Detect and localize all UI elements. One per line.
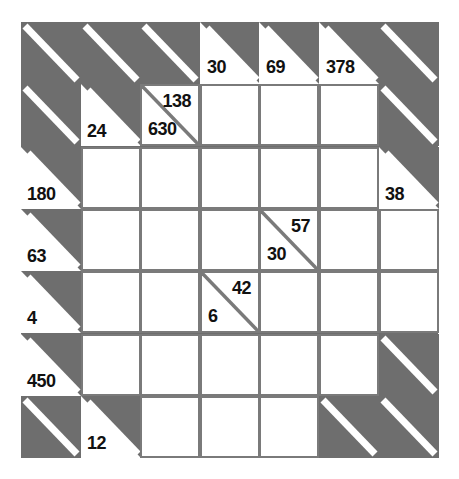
blocked-cell <box>21 22 81 84</box>
clue-value-down: 180 <box>27 185 56 203</box>
answer-cell[interactable] <box>200 209 260 271</box>
clue-value-down: 378 <box>326 58 355 76</box>
answer-cell[interactable] <box>140 396 200 458</box>
blocked-cell <box>21 396 81 458</box>
answer-cell[interactable] <box>319 147 379 209</box>
blocked-cell <box>379 22 439 84</box>
answer-cell[interactable] <box>259 84 319 146</box>
clue-value-down: 38 <box>385 185 404 203</box>
answer-cell[interactable] <box>319 209 379 271</box>
answer-cell[interactable] <box>81 147 141 209</box>
answer-cell[interactable] <box>140 147 200 209</box>
clue-cell: 38 <box>379 147 439 209</box>
clue-value-across: 57 <box>291 217 310 235</box>
clue-value-down: 630 <box>148 120 177 138</box>
blocked-cell <box>379 84 439 146</box>
clue-value-down: 24 <box>87 122 106 140</box>
clue-cell: 69 <box>259 22 319 84</box>
answer-cell[interactable] <box>319 271 379 333</box>
clue-value-down: 450 <box>27 372 56 390</box>
answer-cell[interactable] <box>140 209 200 271</box>
clue-cell: 63 <box>21 209 81 271</box>
clue-cell: 24 <box>81 84 141 146</box>
blocked-cell <box>379 396 439 458</box>
clue-cell: 180 <box>21 147 81 209</box>
answer-cell[interactable] <box>379 271 439 333</box>
blocked-cell <box>140 22 200 84</box>
split-clue-cell: 642 <box>200 271 260 333</box>
clue-value-down: 30 <box>267 245 286 263</box>
clue-value-down: 30 <box>207 58 226 76</box>
clue-value-down: 4 <box>27 309 37 327</box>
answer-cell[interactable] <box>319 334 379 396</box>
answer-cell[interactable] <box>379 209 439 271</box>
blocked-cell <box>379 334 439 396</box>
clue-value-across: 42 <box>232 279 251 297</box>
clue-cell: 378 <box>319 22 379 84</box>
clue-cell: 12 <box>81 396 141 458</box>
blocked-cell <box>21 84 81 146</box>
answer-cell[interactable] <box>200 396 260 458</box>
split-clue-cell: 3057 <box>259 209 319 271</box>
answer-cell[interactable] <box>81 209 141 271</box>
answer-cell[interactable] <box>200 334 260 396</box>
blocked-cell <box>319 396 379 458</box>
answer-cell[interactable] <box>200 147 260 209</box>
clue-value-down: 12 <box>87 434 106 452</box>
answer-cell[interactable] <box>259 271 319 333</box>
answer-cell[interactable] <box>200 84 260 146</box>
split-clue-cell: 630138 <box>140 84 200 146</box>
answer-cell[interactable] <box>140 271 200 333</box>
answer-cell[interactable] <box>81 334 141 396</box>
answer-cell[interactable] <box>81 271 141 333</box>
answer-cell[interactable] <box>140 334 200 396</box>
puzzle-grid: 30693782463013818038633057464245012 <box>21 22 438 458</box>
answer-cell[interactable] <box>319 84 379 146</box>
answer-cell[interactable] <box>259 396 319 458</box>
clue-cell: 30 <box>200 22 260 84</box>
blocked-cell <box>81 22 141 84</box>
clue-cell: 4 <box>21 271 81 333</box>
clue-value-down: 63 <box>27 247 46 265</box>
clue-cell: 450 <box>21 334 81 396</box>
clue-value-down: 6 <box>208 307 218 325</box>
answer-cell[interactable] <box>259 147 319 209</box>
clue-value-across: 138 <box>162 92 191 110</box>
clue-value-down: 69 <box>266 58 285 76</box>
answer-cell[interactable] <box>259 334 319 396</box>
